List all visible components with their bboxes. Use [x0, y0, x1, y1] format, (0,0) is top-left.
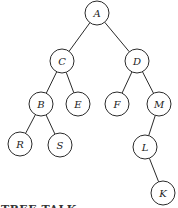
- node-label: C: [58, 56, 66, 67]
- edge-C-E: [66, 72, 74, 93]
- node-label: R: [15, 139, 24, 150]
- edge-L-K: [149, 158, 158, 182]
- tree-nodes: ACDBEFMRSLK: [8, 1, 175, 205]
- edge-M-L: [149, 115, 156, 135]
- tree-node-B: B: [29, 92, 53, 116]
- tree-node-K: K: [151, 181, 175, 205]
- node-label: D: [132, 56, 141, 67]
- node-label: E: [73, 99, 82, 110]
- node-label: K: [158, 188, 167, 199]
- edge-B-S: [46, 115, 55, 134]
- node-label: A: [92, 8, 100, 19]
- tree-node-R: R: [8, 132, 32, 156]
- tree-node-A: A: [85, 1, 109, 25]
- node-label: F: [113, 99, 122, 110]
- tree-node-S: S: [48, 133, 72, 157]
- tree-node-F: F: [105, 92, 129, 116]
- node-label: S: [57, 140, 64, 151]
- node-label: M: [153, 99, 165, 110]
- edge-B-R: [26, 115, 36, 134]
- edge-A-C: [69, 23, 90, 52]
- tree-node-L: L: [133, 135, 157, 159]
- node-label: L: [141, 142, 149, 153]
- edge-D-F: [122, 72, 132, 93]
- tree-node-M: M: [147, 92, 171, 116]
- tree-diagram: ACDBEFMRSLK: [0, 0, 178, 208]
- edge-D-M: [142, 72, 153, 94]
- edge-C-B: [46, 72, 56, 93]
- tree-node-E: E: [66, 92, 90, 116]
- node-label: B: [36, 99, 44, 110]
- tree-node-D: D: [125, 49, 149, 73]
- edge-A-D: [105, 22, 130, 52]
- clipped-caption: TREE TALK: [1, 204, 77, 208]
- tree-node-C: C: [50, 49, 74, 73]
